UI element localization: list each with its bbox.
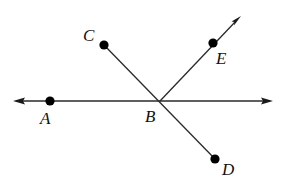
point-c	[99, 40, 108, 49]
point-d	[210, 154, 219, 163]
label-d: D	[221, 160, 235, 179]
segment-cd	[104, 45, 215, 159]
label-c: C	[83, 26, 95, 45]
point-e	[208, 38, 217, 47]
label-b: B	[145, 107, 156, 126]
point-a	[45, 96, 54, 105]
label-a: A	[39, 109, 51, 128]
geometry-diagram: A B C E D	[0, 0, 300, 190]
label-e: E	[215, 49, 227, 68]
